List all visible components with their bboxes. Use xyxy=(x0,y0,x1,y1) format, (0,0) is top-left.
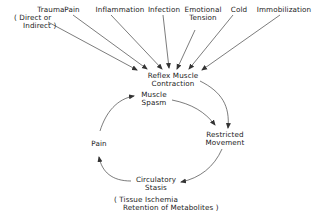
node-reflex-muscle-contraction: Reflex Muscle Contraction xyxy=(138,72,208,88)
footnote-tissue-ischemia: ( Tissue Ischemia Retention of Metabolit… xyxy=(114,196,244,212)
arrow-stasis-to-pain xyxy=(99,157,131,181)
cause-immobilization: Immobilization xyxy=(254,6,314,14)
arrow-cold xyxy=(189,15,233,69)
node-muscle-spasm: Muscle Spasm xyxy=(134,91,174,107)
node-restricted-movement: Restricted Movement xyxy=(200,131,250,147)
cause-emotional-tension: Emotional Tension xyxy=(183,6,223,22)
node-pain: Pain xyxy=(84,140,114,148)
arrow-infection xyxy=(163,15,169,68)
cause-cold: Cold xyxy=(227,6,251,14)
cause-infection: Infection xyxy=(146,6,182,14)
arrow-contraction-to-restricted xyxy=(200,81,228,128)
arrow-emotional xyxy=(177,30,195,69)
arrow-immobilization xyxy=(202,15,280,70)
arrow-spasm-to-restricted xyxy=(172,100,215,125)
arrow-pain-to-spasm xyxy=(100,96,134,131)
arrow-restricted-to-stasis xyxy=(181,149,222,182)
arrow-pain xyxy=(73,15,147,69)
cause-pain: Pain xyxy=(60,6,84,14)
cause-inflammation: Inflammation xyxy=(92,6,148,14)
arrow-inflammation xyxy=(111,15,162,69)
node-circulatory-stasis: Circulatory Stasis xyxy=(128,176,184,192)
